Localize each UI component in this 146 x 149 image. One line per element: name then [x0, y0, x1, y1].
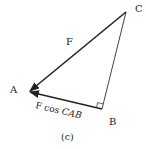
figure-caption: (c) — [61, 131, 74, 142]
component-label-angle: CAB — [61, 106, 83, 120]
vertex-label-a: A — [9, 84, 18, 95]
force-vector-f — [30, 12, 126, 91]
vector-diagram: C A B F F cos CAB (c) — [0, 0, 146, 149]
side-cb — [102, 12, 126, 109]
diagram-svg: C A B F F cos CAB (c) — [0, 0, 146, 149]
vertex-label-c: C — [135, 3, 143, 14]
force-label-f: F — [66, 36, 73, 47]
component-label-main: F cos — [35, 100, 64, 116]
vertex-label-b: B — [109, 116, 116, 127]
